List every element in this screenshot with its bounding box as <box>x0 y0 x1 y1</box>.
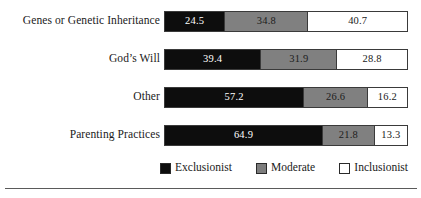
chart-row: Parenting Practices 64.9 21.8 13.3 <box>0 122 421 148</box>
bar-segment-moderate: 21.8 <box>322 126 375 145</box>
stacked-bar-chart: Genes or Genetic Inheritance 24.5 34.8 4… <box>0 0 421 198</box>
legend-label: Moderate <box>271 162 315 174</box>
legend-item-inclusionist: Inclusionist <box>339 162 408 174</box>
segment-value: 57.2 <box>225 92 244 103</box>
legend-swatch-icon <box>160 163 171 174</box>
bar-segment-moderate: 31.9 <box>260 50 337 69</box>
segment-value: 26.6 <box>326 92 345 103</box>
segment-value: 34.8 <box>257 16 276 27</box>
legend-swatch-icon <box>339 163 350 174</box>
bar-segment-inclusionist: 28.8 <box>337 50 407 69</box>
segment-value: 64.9 <box>234 130 253 141</box>
segment-value: 28.8 <box>363 54 382 65</box>
bar-segment-moderate: 26.6 <box>303 88 367 107</box>
segment-value: 21.8 <box>339 130 358 141</box>
stacked-bar: 24.5 34.8 40.7 <box>164 11 408 32</box>
chart-legend: Exclusionist Moderate Inclusionist <box>160 159 408 177</box>
legend-item-exclusionist: Exclusionist <box>160 162 232 174</box>
bar-segment-inclusionist: 16.2 <box>368 88 407 107</box>
bar-segment-exclusionist: 64.9 <box>165 126 322 145</box>
segment-value: 24.5 <box>185 16 204 27</box>
segment-value: 13.3 <box>381 130 400 141</box>
category-label: Other <box>0 91 164 103</box>
segment-value: 16.2 <box>378 92 397 103</box>
legend-item-moderate: Moderate <box>256 162 315 174</box>
bar-segment-exclusionist: 57.2 <box>165 88 303 107</box>
segment-value: 40.7 <box>348 16 367 27</box>
category-label: Parenting Practices <box>0 129 164 141</box>
bar-segment-inclusionist: 40.7 <box>308 12 406 31</box>
stacked-bar: 57.2 26.6 16.2 <box>164 87 408 108</box>
bar-segment-moderate: 34.8 <box>224 12 308 31</box>
segment-value: 31.9 <box>289 54 308 65</box>
category-label: Genes or Genetic Inheritance <box>0 15 164 27</box>
category-label: God’s Will <box>0 53 164 65</box>
bar-segment-exclusionist: 24.5 <box>165 12 224 31</box>
stacked-bar: 39.4 31.9 28.8 <box>164 49 408 70</box>
chart-row: God’s Will 39.4 31.9 28.8 <box>0 46 421 72</box>
bar-segment-inclusionist: 13.3 <box>375 126 407 145</box>
horizontal-rule <box>5 188 417 189</box>
legend-label: Inclusionist <box>354 162 408 174</box>
stacked-bar: 64.9 21.8 13.3 <box>164 125 408 146</box>
chart-row: Genes or Genetic Inheritance 24.5 34.8 4… <box>0 8 421 34</box>
chart-row: Other 57.2 26.6 16.2 <box>0 84 421 110</box>
legend-label: Exclusionist <box>175 162 232 174</box>
bar-segment-exclusionist: 39.4 <box>165 50 260 69</box>
segment-value: 39.4 <box>203 54 222 65</box>
legend-swatch-icon <box>256 163 267 174</box>
